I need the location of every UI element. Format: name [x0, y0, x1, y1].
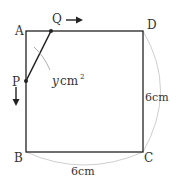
vertex-b-label: B [14, 151, 23, 165]
point-q-dot [49, 29, 53, 33]
vertex-d-label: D [147, 18, 157, 32]
segment-pq [26, 31, 51, 81]
svg-text:y: y [51, 74, 59, 88]
area-label: y cm 2 [51, 73, 84, 88]
square-diagram: A Q D P B C y cm 2 6cm 6cm [0, 0, 180, 183]
svg-text:cm: cm [60, 74, 79, 88]
svg-text:2: 2 [80, 73, 84, 81]
arrow-down-icon [13, 99, 20, 106]
square-abcd [26, 31, 143, 152]
point-p-label: P [12, 75, 20, 89]
arrow-right-icon [76, 17, 83, 24]
vertex-c-label: C [144, 151, 153, 165]
point-q-label: Q [52, 12, 62, 26]
bottom-side-length-label: 6cm [71, 165, 95, 178]
right-side-length-label: 6cm [145, 91, 169, 104]
vertex-a-label: A [14, 24, 24, 38]
bottom-dimension-arc [26, 152, 143, 165]
point-p-dot [24, 79, 28, 83]
